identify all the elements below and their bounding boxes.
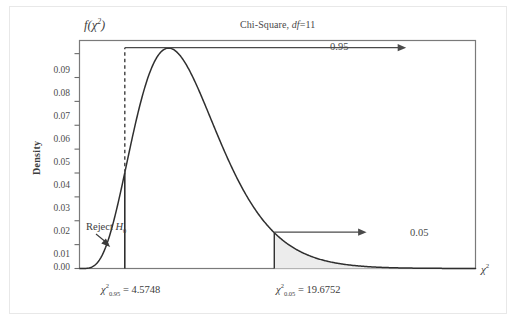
lower-critical-value-caption: χ20.95 = 4.5748 — [101, 283, 160, 297]
reject-null-label: Reject H0 — [86, 222, 126, 235]
x-axis-title: χ2 — [481, 263, 489, 275]
chart-plot-area — [0, 0, 517, 321]
confidence-arrow-head-icon — [398, 44, 407, 51]
upper-critical-value-caption: χ20.05 = 19.6752 — [276, 283, 341, 297]
tail-arrow-head-icon — [358, 229, 367, 236]
y-axis-tick-marks — [75, 54, 80, 269]
tail-probability-label: 0.05 — [410, 228, 428, 239]
confidence-level-label: 0.95 — [330, 42, 348, 53]
chi-square-figure: f(χ2) Chi-Square, df=11 Density 0.09 0.0… — [0, 0, 517, 321]
right-tail-shading — [274, 233, 475, 269]
